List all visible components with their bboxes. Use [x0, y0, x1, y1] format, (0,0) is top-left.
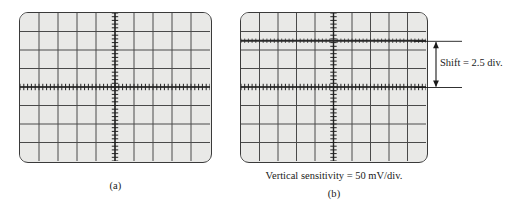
panel-caption-a: (a): [0, 180, 231, 191]
scope-graticule-b: [241, 13, 426, 161]
shift-label: Shift = 2.5 div.: [440, 57, 503, 68]
oscilloscope-figure: (a) Vertical sensitivity = 50 mV/div. (b…: [0, 0, 505, 206]
oscilloscope-screen-a: [19, 12, 212, 163]
vertical-sensitivity-note: Vertical sensitivity = 50 mV/div.: [200, 170, 468, 181]
panel-caption-b: (b): [240, 188, 428, 199]
scope-graticule-a: [20, 13, 210, 161]
oscilloscope-screen-b: [240, 12, 428, 163]
